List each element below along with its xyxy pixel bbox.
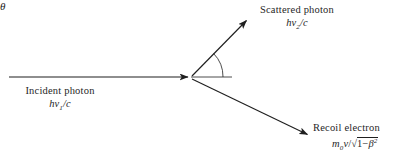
scattered-photon-label: Scattered photon hν2/c	[249, 3, 345, 34]
incident-photon-name: Incident photon	[8, 84, 112, 97]
scattered-photon-name: Scattered photon	[249, 3, 345, 16]
recoil-electron-name: Recoil electron	[313, 121, 397, 134]
recoil-electron-ray	[192, 79, 308, 135]
compton-scattering-figure: Incident photon hν1/c Scattered photon h…	[0, 0, 397, 163]
incident-formula-suffix: /c	[63, 98, 71, 109]
scattered-photon-ray	[192, 21, 247, 77]
angle-arc	[214, 54, 223, 78]
recoil-electron-formula: m0v/√1−β2	[313, 134, 397, 155]
scattered-formula-suffix: /c	[300, 17, 308, 28]
recoil-radicand-power: 2	[374, 136, 378, 144]
recoil-formula-radicand: 1−β2	[357, 137, 378, 149]
incident-photon-label: Incident photon hν1/c	[8, 84, 112, 115]
scattered-photon-formula: hν2/c	[249, 16, 345, 34]
recoil-formula-mass: m	[332, 138, 340, 149]
recoil-radicand-prefix: 1−	[357, 138, 368, 149]
incident-photon-formula: hν1/c	[8, 97, 112, 115]
recoil-electron-label: Recoil electron m0v/√1−β2	[313, 121, 397, 155]
